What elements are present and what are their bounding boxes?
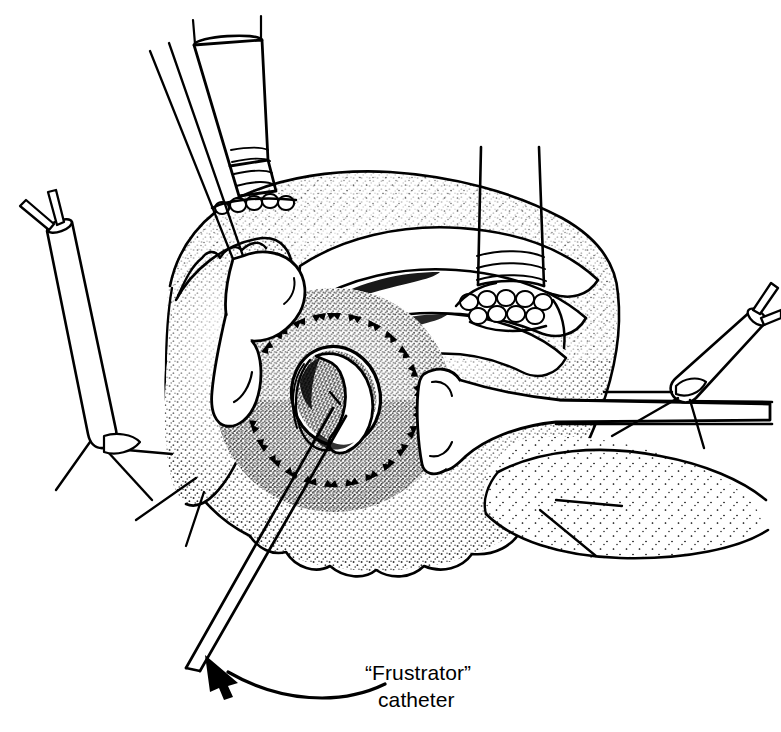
label-line-2: catheter	[378, 688, 455, 711]
surgical-illustration-figure: “Frustrator” catheter	[0, 0, 781, 732]
illustration-canvas: “Frustrator” catheter	[0, 0, 781, 732]
label-line-1: “Frustrator”	[365, 661, 471, 684]
